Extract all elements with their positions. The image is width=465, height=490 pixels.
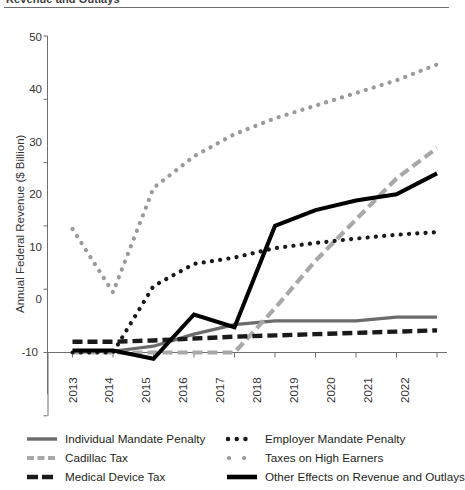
legend-swatch-cadillac-tax — [26, 451, 58, 465]
legend-item-other-effects[interactable]: Other Effects on Revenue and Outlays — [226, 468, 465, 486]
legend-column-right: Employer Mandate Penalty Taxes on High E… — [226, 430, 465, 487]
legend-label-medical-device-tax: Medical Device Tax — [65, 470, 165, 484]
legend-label-cadillac-tax: Cadillac Tax — [65, 451, 128, 465]
legend-swatch-medical-device-tax — [26, 470, 58, 484]
legend-label-employer-mandate-penalty: Employer Mandate Penalty — [265, 432, 405, 446]
legend-item-cadillac-tax[interactable]: Cadillac Tax — [26, 449, 205, 467]
legend-swatch-taxes-on-high-earners — [226, 451, 258, 465]
legend-item-employer-mandate-penalty[interactable]: Employer Mandate Penalty — [226, 430, 465, 448]
legend-swatch-individual-mandate-penalty — [26, 432, 58, 446]
legend-swatch-employer-mandate-penalty — [226, 432, 258, 446]
legend-item-individual-mandate-penalty[interactable]: Individual Mandate Penalty — [26, 430, 205, 448]
legend-label-taxes-on-high-earners: Taxes on High Earners — [265, 451, 383, 465]
legend-item-medical-device-tax[interactable]: Medical Device Tax — [26, 468, 205, 486]
legend-label-other-effects: Other Effects on Revenue and Outlays — [265, 470, 465, 484]
legend-column-left: Individual Mandate Penalty Cadillac Tax … — [26, 430, 205, 487]
series-layer — [73, 64, 438, 358]
chart-legend: Individual Mandate Penalty Cadillac Tax … — [0, 430, 453, 488]
axis-layer — [44, 36, 448, 416]
series-line-taxes-on-high-earners — [73, 64, 438, 292]
legend-label-individual-mandate-penalty: Individual Mandate Penalty — [65, 432, 205, 446]
line-chart-plot — [0, 0, 453, 430]
legend-swatch-other-effects — [226, 470, 258, 484]
legend-item-taxes-on-high-earners[interactable]: Taxes on High Earners — [226, 449, 465, 467]
